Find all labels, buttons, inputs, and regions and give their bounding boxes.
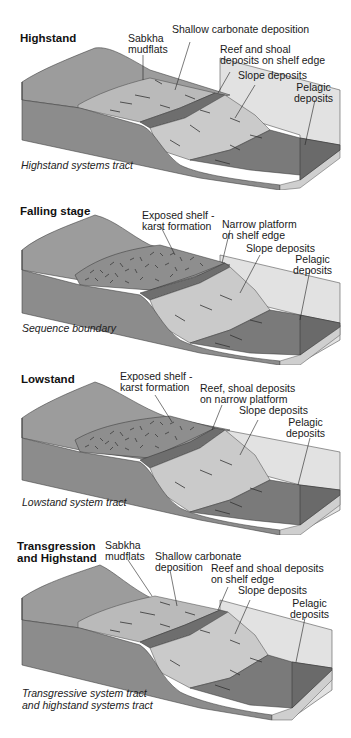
- panel-caption: Lowstand system tract: [22, 496, 126, 508]
- panel-caption: Highstand systems tract: [21, 159, 133, 171]
- panel-highstand: Highstand Sabkha mudflats Shallow carbon…: [0, 0, 351, 190]
- label-sabkha-mudflats: Sabkha mudflats: [105, 540, 145, 562]
- label-narrow-platform: Narrow platform on shelf edge: [222, 219, 297, 241]
- panel-title: Lowstand: [21, 373, 75, 385]
- label-shallow-carbonate: Shallow carbonate deposition: [172, 24, 309, 35]
- panel-title: Falling stage: [20, 205, 90, 217]
- label-slope-deposits: Slope deposits: [239, 405, 308, 416]
- label-sabkha-mudflats: Sabkha mudflats: [128, 33, 168, 55]
- label-exposed-shelf: Exposed shelf - karst formation: [120, 371, 192, 393]
- label-slope-deposits: Slope deposits: [238, 70, 307, 81]
- panel-title: Transgression and Highstand: [17, 540, 97, 564]
- panel-falling-stage: Falling stage Exposed shelf - karst form…: [0, 185, 351, 365]
- panel-caption: Transgressive system tract and highstand…: [22, 687, 153, 711]
- panel-lowstand: Lowstand Exposed shelf - karst formation…: [0, 360, 351, 535]
- label-reef-shoal: Reef and shoal deposits on shelf edge: [220, 44, 325, 66]
- label-reef-shoal: Reef and shoal deposits on shelf edge: [211, 563, 324, 585]
- label-exposed-shelf: Exposed shelf - karst formation: [142, 210, 214, 232]
- panel-title: Highstand: [20, 32, 76, 44]
- panel-transgression-highstand: Transgression and Highstand Sabkha mudfl…: [0, 530, 351, 738]
- label-pelagic-deposits: Pelagic deposits: [293, 254, 332, 276]
- label-slope-deposits: Slope deposits: [238, 585, 307, 596]
- label-reef-shoal-narrow-platform: Reef, shoal deposits on narrow platform: [200, 383, 295, 405]
- label-pelagic-deposits: Pelagic deposits: [290, 598, 329, 620]
- label-pelagic-deposits: Pelagic deposits: [294, 82, 333, 104]
- label-pelagic-deposits: Pelagic deposits: [286, 417, 325, 439]
- panel-caption: Sequence boundary: [22, 322, 116, 334]
